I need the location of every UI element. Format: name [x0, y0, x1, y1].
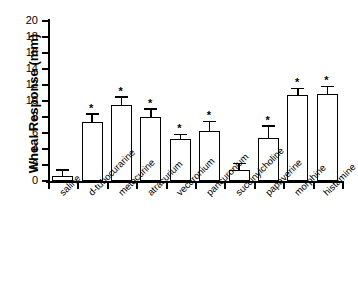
- error-bar-pancuronium: [209, 122, 211, 130]
- bar-group: *: [317, 0, 338, 181]
- error-bar-vecuronium: [180, 135, 182, 139]
- y-tick-14: [42, 68, 48, 70]
- y-tick-20: [42, 20, 48, 22]
- y-tick-label-0: 0: [12, 175, 38, 186]
- significance-star-histamine: *: [324, 76, 328, 84]
- error-bar-atracurium: [150, 110, 152, 118]
- y-tick-8: [42, 116, 48, 118]
- y-tick-label-6: 6: [12, 127, 38, 138]
- error-bar-metocurine: [121, 98, 123, 106]
- error-cap-morphine: [291, 88, 304, 90]
- significance-star-metocurine: *: [119, 87, 123, 95]
- significance-star-papaverine: *: [266, 116, 270, 124]
- error-bar-morphine: [297, 89, 299, 95]
- error-cap-vecuronium: [174, 134, 187, 136]
- bar-group: *: [199, 0, 220, 181]
- y-tick-label-2: 2: [12, 159, 38, 170]
- y-tick-label-12: 12: [12, 79, 38, 90]
- y-tick-label-16: 16: [12, 47, 38, 58]
- error-bar-saline: [62, 171, 64, 176]
- bar-group: *: [287, 0, 308, 181]
- error-bar-papaverine: [268, 127, 270, 138]
- y-tick-4: [42, 148, 48, 150]
- error-cap-saline: [56, 169, 69, 171]
- y-tick-6: [42, 132, 48, 134]
- y-tick-10: [42, 100, 48, 102]
- significance-star-vecuronium: *: [177, 124, 181, 132]
- y-tick-label-20: 20: [12, 15, 38, 26]
- y-tick-label-4: 4: [12, 143, 38, 154]
- x-tick-0: [48, 183, 50, 189]
- y-tick-0: [42, 180, 48, 182]
- y-tick-18: [42, 36, 48, 38]
- y-tick-label-14: 14: [12, 63, 38, 74]
- bar-group: [52, 0, 73, 181]
- y-tick-label-8: 8: [12, 111, 38, 122]
- bar-group: *: [170, 0, 191, 181]
- y-axis-line: [48, 19, 50, 184]
- y-tick-label-18: 18: [12, 31, 38, 42]
- error-cap-histamine: [321, 86, 334, 88]
- y-tick-2: [42, 164, 48, 166]
- bar-d-tubocurarine: [82, 122, 103, 181]
- bar-group: *: [140, 0, 161, 181]
- significance-star-atracurium: *: [148, 99, 152, 107]
- y-tick-16: [42, 52, 48, 54]
- error-bar-histamine: [327, 87, 329, 93]
- significance-star-d-tubocurarine: *: [89, 104, 93, 112]
- bar-group: *: [82, 0, 103, 181]
- significance-star-pancuronium: *: [207, 111, 211, 119]
- significance-star-morphine: *: [295, 78, 299, 86]
- y-tick-12: [42, 84, 48, 86]
- y-tick-label-10: 10: [12, 95, 38, 106]
- error-bar-d-tubocurarine: [91, 115, 93, 122]
